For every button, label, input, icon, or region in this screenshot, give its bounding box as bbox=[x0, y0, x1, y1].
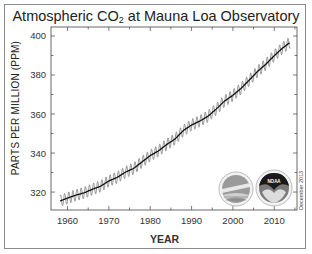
y-tick-label: 340 bbox=[30, 148, 46, 159]
y-tick-label: 320 bbox=[30, 187, 46, 198]
x-tick-label: 1960 bbox=[57, 215, 78, 226]
logos: NOAA bbox=[219, 170, 292, 206]
axes: 196019701980199020002010320340360380400 bbox=[30, 27, 297, 226]
seasonal-cycle-line bbox=[60, 38, 290, 206]
y-tick-label: 360 bbox=[30, 109, 46, 120]
x-tick-label: 1980 bbox=[140, 215, 161, 226]
trend-line bbox=[60, 43, 289, 201]
x-tick-label: 2010 bbox=[264, 215, 285, 226]
y-tick-label: 380 bbox=[30, 69, 46, 80]
x-tick-label: 2000 bbox=[222, 215, 243, 226]
noaa-logo-icon: NOAA bbox=[256, 170, 292, 206]
x-tick-label: 1970 bbox=[98, 215, 119, 226]
svg-text:NOAA: NOAA bbox=[267, 179, 281, 184]
scripps-logo-icon bbox=[219, 172, 253, 206]
plot-area: 196019701980199020002010320340360380400 … bbox=[0, 0, 312, 254]
y-tick-label: 400 bbox=[30, 30, 46, 41]
x-tick-label: 1990 bbox=[181, 215, 202, 226]
